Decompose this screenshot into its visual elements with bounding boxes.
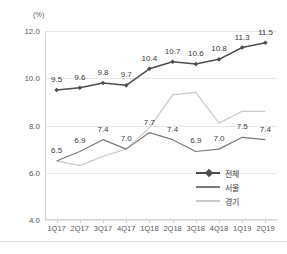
data-point-marker bbox=[78, 85, 83, 90]
x-axis-tick-mark bbox=[173, 220, 174, 223]
data-label: 9.7 bbox=[121, 70, 132, 79]
x-axis-tick-label: 1Q19 bbox=[233, 224, 251, 233]
data-label: 9.6 bbox=[74, 73, 85, 82]
data-label: 9.5 bbox=[51, 75, 62, 84]
y-axis-tick-label: 6.0 bbox=[29, 168, 40, 177]
y-axis-tick-label: 12.0 bbox=[24, 27, 40, 36]
x-axis-tick-mark bbox=[126, 220, 127, 223]
data-label: 10.7 bbox=[165, 47, 181, 56]
x-axis-labels: 1Q172Q173Q174Q171Q182Q183Q184Q181Q192Q19 bbox=[45, 224, 277, 238]
data-label: 9.8 bbox=[97, 68, 108, 77]
legend-line-icon bbox=[196, 182, 220, 192]
legend-line-light-icon bbox=[196, 196, 220, 206]
data-label: 6.5 bbox=[51, 146, 62, 155]
legend-item-gyeonggi[interactable]: 경기 bbox=[196, 194, 278, 208]
y-axis-tick-label: 4.0 bbox=[29, 216, 40, 225]
x-axis-tick-mark bbox=[80, 220, 81, 223]
data-label: 10.8 bbox=[211, 44, 227, 53]
x-axis-tick-mark bbox=[196, 220, 197, 223]
data-label: 7.7 bbox=[144, 118, 155, 127]
bottom-divider bbox=[0, 241, 287, 254]
x-axis-tick-mark bbox=[103, 220, 104, 223]
line-chart: (%) 4.06.08.010.012.09.59.69.89.710.410.… bbox=[0, 0, 287, 254]
x-axis-tick-mark bbox=[242, 220, 243, 223]
series-line-1 bbox=[57, 133, 266, 161]
data-label: 10.6 bbox=[188, 49, 204, 58]
series-line-2 bbox=[57, 92, 266, 165]
x-axis-tick-mark bbox=[57, 220, 58, 223]
data-label: 11.3 bbox=[235, 33, 250, 42]
legend-item-seoul[interactable]: 서울 bbox=[196, 180, 278, 194]
data-label: 7.4 bbox=[167, 125, 178, 134]
x-axis-tick-mark bbox=[219, 220, 220, 223]
x-axis-tick-label: 2Q19 bbox=[256, 224, 274, 233]
data-point-marker bbox=[101, 81, 106, 86]
data-label: 6.9 bbox=[74, 136, 85, 145]
legend-label-total: 전체 bbox=[225, 168, 239, 179]
x-axis-tick-mark bbox=[149, 220, 150, 223]
data-label: 7.4 bbox=[97, 125, 108, 134]
data-label: 11.5 bbox=[258, 28, 273, 37]
data-point-marker bbox=[54, 88, 59, 93]
legend-line-diamond-icon bbox=[196, 168, 220, 178]
x-axis-tick-label: 4Q17 bbox=[117, 224, 135, 233]
legend-label-seoul: 서울 bbox=[225, 182, 239, 193]
data-point-marker bbox=[263, 41, 268, 46]
y-axis-tick-label: 8.0 bbox=[29, 121, 40, 130]
data-label: 7.0 bbox=[121, 134, 132, 143]
legend-label-gyeonggi: 경기 bbox=[225, 196, 239, 207]
x-axis-tick-label: 2Q17 bbox=[71, 224, 89, 233]
data-label: 7.0 bbox=[213, 134, 224, 143]
data-label: 7.4 bbox=[260, 125, 271, 134]
data-point-marker bbox=[170, 59, 175, 64]
x-axis-tick-label: 1Q18 bbox=[140, 224, 158, 233]
y-axis-tick-label: 10.0 bbox=[24, 74, 40, 83]
x-axis-tick-label: 1Q17 bbox=[47, 224, 65, 233]
x-axis-tick-label: 3Q17 bbox=[94, 224, 112, 233]
y-axis-unit-label: (%) bbox=[33, 11, 45, 18]
x-axis-tick-label: 2Q18 bbox=[163, 224, 181, 233]
series-line-0 bbox=[57, 43, 266, 90]
x-axis-tick-label: 4Q18 bbox=[210, 224, 228, 233]
data-label: 7.5 bbox=[237, 122, 248, 131]
chart-legend: 전체 서울 경기 bbox=[196, 166, 278, 208]
data-point-marker bbox=[194, 62, 199, 67]
legend-item-total[interactable]: 전체 bbox=[196, 166, 278, 180]
data-label: 10.4 bbox=[142, 54, 158, 63]
x-axis-tick-label: 3Q18 bbox=[187, 224, 205, 233]
x-axis-tick-mark bbox=[265, 220, 266, 223]
data-label: 6.9 bbox=[190, 136, 201, 145]
